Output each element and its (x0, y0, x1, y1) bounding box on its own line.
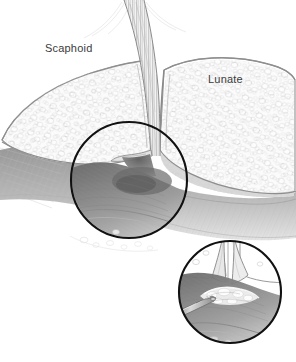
label-lunate: Lunate (208, 73, 243, 85)
medical-illustration: Scaphoid Lunate (0, 0, 296, 362)
label-scaphoid: Scaphoid (45, 42, 92, 54)
illustration-canvas: Scaphoid Lunate (0, 0, 296, 362)
